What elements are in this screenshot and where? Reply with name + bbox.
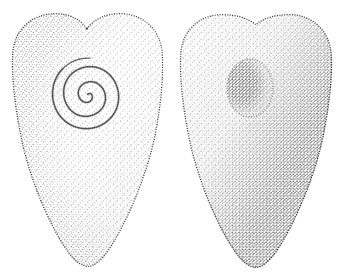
artifact-illustration-svg [0, 0, 346, 280]
engraving-plate [0, 0, 346, 280]
